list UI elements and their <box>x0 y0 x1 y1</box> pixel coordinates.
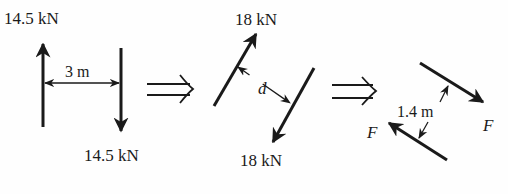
distance-label: d <box>258 79 267 98</box>
force-down-arrow <box>273 68 314 142</box>
force-top-label: 18 kN <box>235 10 277 29</box>
implies-arrow-1 <box>147 75 193 103</box>
force-up-arrow <box>214 34 256 106</box>
distance-label: 1.4 m <box>397 103 434 120</box>
force-bottom-label: 14.5 kN <box>84 146 139 165</box>
distance-dimension-arrow-upper <box>440 86 448 102</box>
couple-3: 1.4 m F F <box>366 63 494 160</box>
implies-arrow-2 <box>332 77 376 105</box>
couples-diagram: 14.5 kN 3 m 14.5 kN d 18 kN 18 kN <box>0 0 508 194</box>
force-left-arrow <box>389 123 447 160</box>
force-right-label: F <box>482 116 494 135</box>
diagram-canvas: 14.5 kN 3 m 14.5 kN d 18 kN 18 kN <box>0 0 508 194</box>
distance-dimension-arrow-lower <box>419 122 428 138</box>
distance-label: 3 m <box>65 63 90 80</box>
force-right-arrow <box>420 63 483 102</box>
force-bottom-label: 18 kN <box>240 151 282 170</box>
couple-1: 14.5 kN 3 m 14.5 kN <box>4 9 139 165</box>
force-top-label: 14.5 kN <box>4 9 59 28</box>
force-left-label: F <box>366 123 378 142</box>
couple-2: d 18 kN 18 kN <box>214 10 314 170</box>
